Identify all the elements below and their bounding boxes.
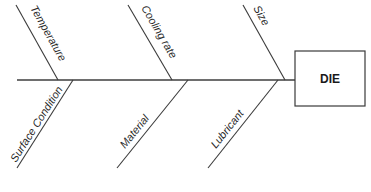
fishbone-diagram: Temperature Cooling rate Size Surface Co… [0, 0, 371, 192]
cause-label-size: Size [251, 3, 272, 28]
cause-label-temperature: Temperature [28, 3, 69, 63]
bone-material [117, 80, 188, 168]
bone-surface-condition [17, 80, 73, 168]
cause-label-cooling-rate: Cooling rate [139, 3, 179, 60]
effect-label: DIE [320, 72, 340, 86]
cause-label-surface-condition: Surface Condition [8, 84, 65, 164]
bone-lubricant [208, 80, 278, 168]
